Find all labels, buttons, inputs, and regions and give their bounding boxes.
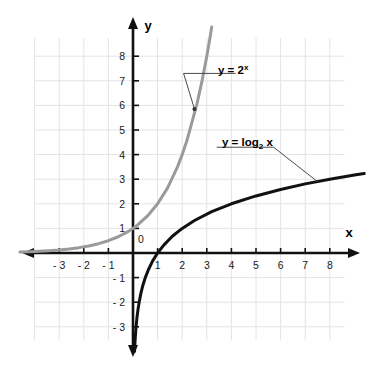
x-tick-label: 8: [327, 259, 333, 271]
x-tick-label: - 2: [78, 259, 90, 271]
origin-label: 0: [138, 233, 144, 245]
y-tick-label: - 2: [113, 296, 125, 308]
y-tick-label: 6: [119, 99, 125, 111]
logarithmic-label-prefix: y = log: [222, 136, 259, 148]
exponential-label-exponent: x: [244, 63, 249, 72]
y-tick-label: - 3: [113, 321, 125, 333]
x-tick-label: 3: [204, 259, 210, 271]
x-tick-label: 5: [253, 259, 259, 271]
y-tick-label: 7: [119, 75, 125, 87]
x-tick-label: 1: [155, 259, 161, 271]
y-axis-label: y: [144, 18, 152, 33]
x-tick-label: 7: [302, 259, 308, 271]
exponential-anchor-dot: [192, 107, 196, 111]
plot-background: [0, 0, 379, 369]
logarithmic-label-suffix: x: [263, 136, 273, 148]
y-tick-label: 4: [119, 149, 125, 161]
x-tick-label: 4: [228, 259, 234, 271]
x-tick-label: 6: [278, 259, 284, 271]
x-tick-label: - 3: [53, 259, 65, 271]
y-tick-label: - 1: [113, 272, 125, 284]
x-axis-label: x: [345, 225, 353, 240]
y-tick-label: 3: [119, 173, 125, 185]
y-tick-label: 8: [119, 50, 125, 62]
y-tick-label: 2: [119, 198, 125, 210]
y-tick-label: 5: [119, 124, 125, 136]
x-tick-label: - 1: [102, 259, 114, 271]
graph-figure: - 3- 2- 112345678- 3- 2- 112345678 x y 0…: [0, 0, 379, 369]
exponential-label-base: y = 2: [218, 64, 244, 76]
coordinate-plot: - 3- 2- 112345678- 3- 2- 112345678 x y 0…: [0, 0, 379, 369]
x-tick-label: 2: [179, 259, 185, 271]
